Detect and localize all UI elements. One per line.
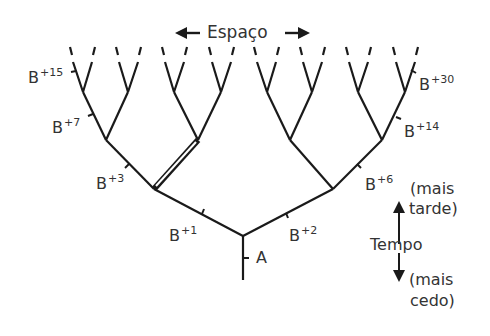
space-axis-label: Espaço	[207, 22, 268, 42]
branch-l3-6	[290, 92, 312, 140]
label-b6-sup: +6	[377, 173, 393, 186]
label-b15: B+15	[28, 70, 63, 88]
time-axis-label: Tempo	[370, 236, 422, 254]
time-later-line2: tarde)	[409, 200, 458, 218]
tick-b6	[357, 164, 361, 168]
branch-b7	[83, 92, 106, 140]
label-a: A	[256, 250, 267, 266]
branch-l3-3	[174, 92, 198, 140]
branch-l3-5	[267, 92, 290, 140]
tick-b3	[125, 164, 129, 168]
label-b2-sup: +2	[301, 224, 317, 237]
tick-b14	[396, 117, 401, 119]
branch-b2	[243, 189, 333, 236]
label-b14-base: B	[404, 122, 415, 141]
label-b30-base: B	[419, 75, 430, 94]
label-b2-base: B	[289, 226, 300, 245]
label-b2: B+2	[289, 228, 317, 246]
branch-l3-2	[106, 92, 128, 140]
label-b3-base: B	[96, 174, 107, 193]
label-b30: B+30	[419, 77, 454, 95]
branch-right-left	[290, 140, 333, 189]
label-b6: B+6	[365, 177, 393, 195]
label-b14-sup: +14	[416, 120, 439, 133]
branch-b1	[154, 189, 243, 236]
label-b15-sup: +15	[40, 66, 63, 79]
label-b7: B+7	[52, 120, 80, 138]
label-b1-base: B	[169, 226, 180, 245]
time-later-line1: (mais	[410, 180, 454, 198]
arrow-down-icon	[393, 253, 405, 282]
label-b6-base: B	[365, 175, 376, 194]
label-b7-base: B	[52, 118, 63, 137]
leaf-branches	[73, 62, 415, 92]
tick-b7	[88, 114, 93, 116]
label-b3: B+3	[96, 176, 124, 194]
label-b15-base: B	[28, 68, 39, 87]
time-earlier-line1: (mais	[409, 271, 453, 289]
label-b14: B+14	[404, 124, 439, 142]
branch-b14	[382, 92, 405, 140]
label-b7-sup: +7	[64, 116, 80, 129]
arrow-left-icon	[175, 27, 200, 39]
label-b1: B+1	[169, 228, 197, 246]
label-a-base: A	[256, 248, 267, 267]
future-stubs	[70, 47, 418, 55]
tick-b15	[71, 71, 76, 72]
arrow-right-icon	[285, 27, 310, 39]
branch-l3-7	[358, 92, 382, 140]
double-branch-inner	[156, 142, 196, 186]
label-b3-sup: +3	[108, 172, 124, 185]
label-b1-sup: +1	[181, 224, 197, 237]
branch-l3-4	[198, 92, 221, 140]
label-b30-sup: +30	[431, 73, 454, 86]
time-earlier-line2: cedo)	[410, 292, 455, 310]
tick-b1	[202, 209, 204, 214]
